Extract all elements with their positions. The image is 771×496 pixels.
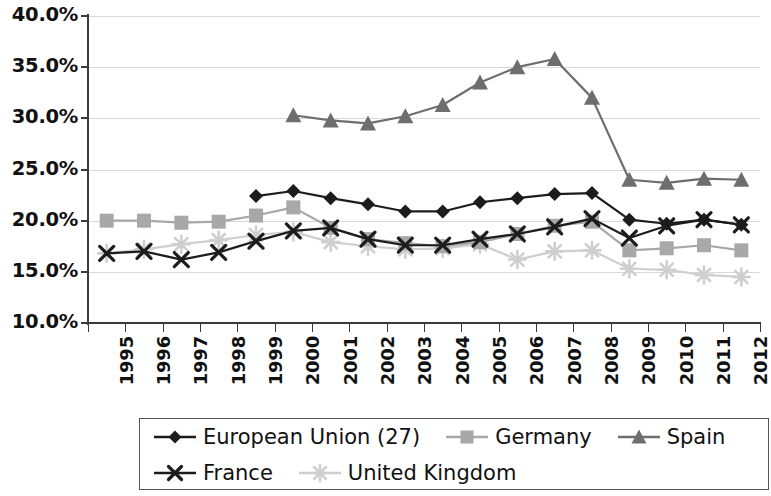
legend-entry-spain[interactable]: Spain <box>616 425 726 449</box>
chart-legend: European Union (27)GermanySpainFranceUni… <box>139 418 769 490</box>
legend-entry-france[interactable]: France <box>152 461 273 485</box>
legend-label: Spain <box>667 425 726 449</box>
series-united-kingdom <box>98 223 750 285</box>
legend-label: Germany <box>495 425 592 449</box>
x-marker-icon <box>152 463 198 483</box>
legend-entry-germany[interactable]: Germany <box>444 425 592 449</box>
legend-row: European Union (27)GermanySpain <box>140 419 768 455</box>
square-marker-icon <box>444 427 490 447</box>
asterisk-marker-icon <box>297 463 343 483</box>
legend-label: European Union (27) <box>203 425 420 449</box>
legend-row: FranceUnited Kingdom <box>140 455 768 491</box>
legend-entry-european-union-27[interactable]: European Union (27) <box>152 425 420 449</box>
legend-entry-united-kingdom[interactable]: United Kingdom <box>297 461 517 485</box>
legend-label: France <box>203 461 273 485</box>
legend-label: United Kingdom <box>348 461 517 485</box>
series-spain <box>285 51 749 190</box>
triangle-marker-icon <box>616 427 662 447</box>
diamond-marker-icon <box>152 427 198 447</box>
series-france <box>100 212 749 267</box>
